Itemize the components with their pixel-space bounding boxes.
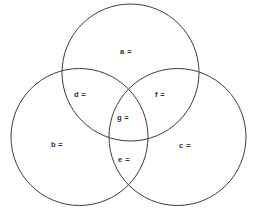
region-label-d: d = bbox=[74, 91, 86, 99]
region-label-e: e = bbox=[118, 156, 130, 164]
venn-circle-right bbox=[109, 69, 246, 206]
region-label-f: f = bbox=[155, 91, 165, 99]
venn-diagram-figure: a = d = f = g = b = c = e = bbox=[0, 0, 263, 212]
region-label-c: c = bbox=[179, 142, 191, 150]
region-label-a: a = bbox=[120, 48, 132, 56]
region-label-g: g = bbox=[117, 114, 129, 122]
venn-circle-top bbox=[62, 4, 199, 141]
venn-circles-canvas bbox=[0, 0, 263, 212]
region-label-b: b = bbox=[51, 141, 63, 149]
venn-circle-left bbox=[11, 69, 148, 206]
